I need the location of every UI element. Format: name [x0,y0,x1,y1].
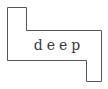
logo-canvas: deep [0,0,108,89]
logo-wordmark: deep [26,35,88,55]
